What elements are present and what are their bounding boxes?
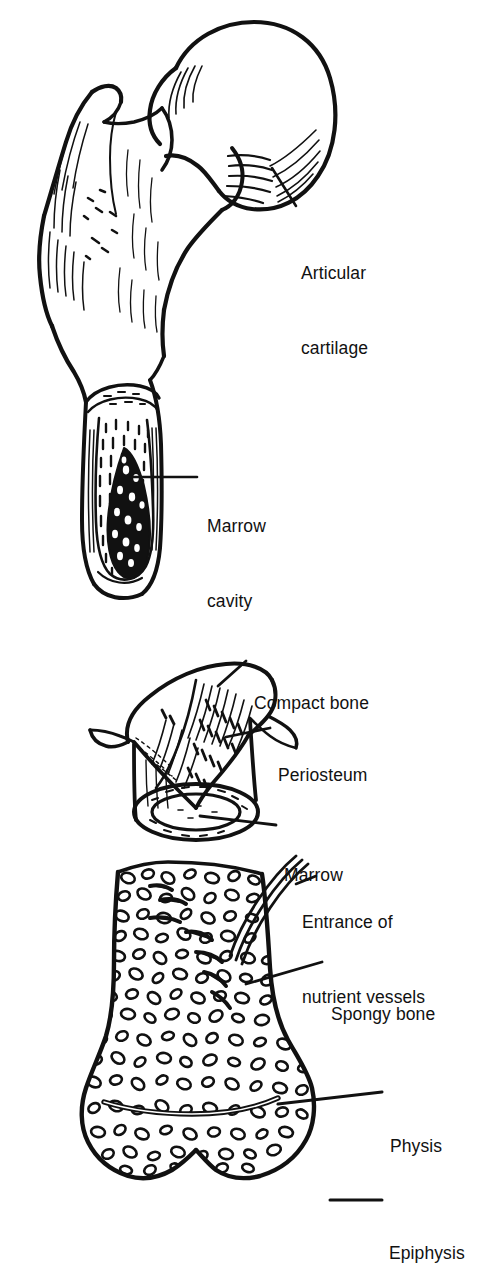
label-marrow-cavity: Marrow cavity [207, 464, 266, 664]
label-periosteum-line1: Periosteum [278, 763, 368, 788]
label-entrance-of-nutrient-vessels-line1: Entrance of [302, 910, 425, 935]
label-epiphysis-line1: Epiphysis [389, 1241, 465, 1266]
label-epiphysis: Epiphysis [389, 1191, 465, 1284]
label-marrow-cavity-line1: Marrow [207, 514, 266, 539]
label-spongy-bone: Spongy bone [331, 952, 435, 1077]
label-spongy-bone-line1: Spongy bone [331, 1002, 435, 1027]
label-articular-cartilage-line1: Articular [301, 261, 368, 286]
label-articular-cartilage: Articular cartilage [301, 211, 368, 411]
bone-anatomy-figure: Articular cartilage Marrow cavity Compac… [0, 0, 501, 1284]
label-articular-cartilage-line2: cartilage [301, 336, 368, 361]
label-marrow-cavity-line2: cavity [207, 589, 266, 614]
label-physis-line1: Physis [390, 1134, 442, 1159]
